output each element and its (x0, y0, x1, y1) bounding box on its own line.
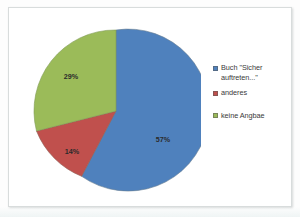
slice-label-red: 14% (65, 147, 80, 156)
legend-label-anderes: anderes (221, 88, 247, 98)
legend-item-anderes[interactable]: anderes (213, 88, 299, 98)
scan-edge-tint (0, 207, 300, 217)
slice-label-green: 29% (64, 72, 79, 81)
legend-label-buch: Buch "Sicher auftreten..." (221, 63, 262, 82)
legend-label-keine-angbae: keine Angbae (221, 111, 265, 121)
pie-chart: 57% 14% 29% Buch "Sicher auftreten..." a… (9, 8, 293, 208)
pie-svg: 57% 14% 29% (31, 26, 201, 196)
legend-swatch-keine-angbae-icon (213, 113, 218, 118)
legend-item-buch[interactable]: Buch "Sicher auftreten..." (213, 63, 299, 82)
legend-swatch-anderes-icon (213, 91, 218, 96)
screenshot-root: 57% 14% 29% Buch "Sicher auftreten..." a… (0, 0, 300, 217)
legend-item-keine-angbae[interactable]: keine Angbae (213, 111, 299, 121)
chart-frame: 57% 14% 29% Buch "Sicher auftreten..." a… (8, 7, 292, 207)
legend-swatch-buch-icon (213, 66, 218, 71)
pie-graphic: 57% 14% 29% (31, 26, 201, 196)
chart-legend: Buch "Sicher auftreten..." anderes keine… (213, 63, 299, 127)
slice-label-blue: 57% (156, 135, 171, 144)
